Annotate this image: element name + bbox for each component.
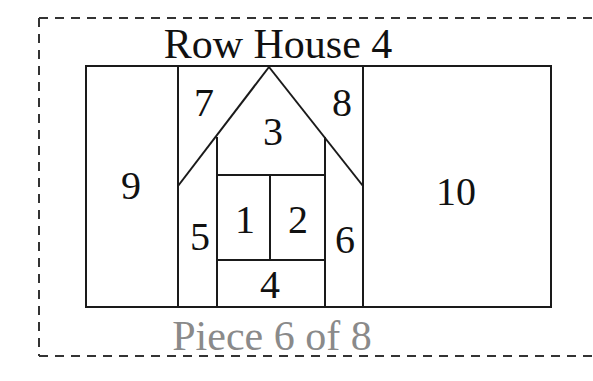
block-outline (86, 66, 551, 307)
block-seams (86, 66, 551, 307)
piece-label-3: 3 (263, 109, 283, 154)
piece-label-10: 10 (436, 169, 476, 214)
piece-counter: Piece 6 of 8 (172, 313, 371, 359)
piece-label-1: 1 (235, 197, 255, 242)
piece-label-5: 5 (190, 214, 210, 259)
piece-label-2: 2 (288, 197, 308, 242)
piece-label-9: 9 (121, 163, 141, 208)
block-title: Row House 4 (164, 21, 393, 67)
piece-label-8: 8 (332, 80, 352, 125)
roof-left-diagonal (178, 67, 269, 186)
piece-label-4: 4 (260, 262, 280, 307)
piece-label-7: 7 (194, 80, 214, 125)
piece-label-6: 6 (335, 217, 355, 262)
quilt-block-diagram: Row House 4 9 7 3 8 10 5 1 2 6 4 Piece 6… (0, 0, 593, 381)
